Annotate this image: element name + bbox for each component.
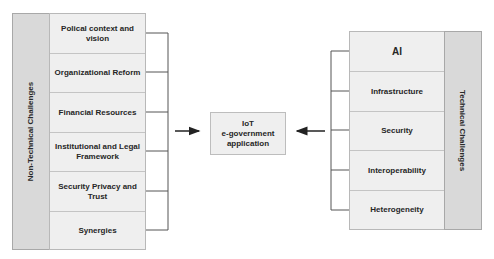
challenge-synergies: Synergies bbox=[50, 212, 145, 249]
center-line-1: IoT bbox=[222, 119, 275, 129]
center-line-3: application bbox=[222, 139, 275, 149]
challenge-political-context: Polical context and vision bbox=[50, 14, 145, 54]
group-label: Technical Challenges bbox=[459, 90, 468, 171]
challenge-ai: AI bbox=[350, 32, 444, 72]
challenge-institutional-legal: Institutional and Legal Framework bbox=[50, 133, 145, 172]
challenge-infrastructure: Infrastructure bbox=[350, 72, 444, 112]
technical-challenges-list: AI Infrastructure Security Interoperabil… bbox=[349, 31, 445, 230]
iot-egovernment-application-box: IoT e-government application bbox=[210, 112, 286, 155]
challenge-security: Security bbox=[350, 112, 444, 151]
technical-challenges-label: Technical Challenges bbox=[444, 31, 482, 230]
left-bracket bbox=[145, 33, 168, 230]
non-technical-challenges-label: Non-Technical Challenges bbox=[12, 13, 50, 250]
center-line-2: e-government bbox=[222, 129, 275, 139]
challenge-interoperability: Interoperability bbox=[350, 151, 444, 191]
group-label: Non-Technical Challenges bbox=[27, 82, 36, 181]
challenge-security-privacy-trust: Security Privacy and Trust bbox=[50, 172, 145, 212]
challenge-organizational-reform: Organizational Reform bbox=[50, 54, 145, 93]
right-bracket bbox=[331, 51, 349, 210]
challenge-heterogeneity: Heterogeneity bbox=[350, 191, 444, 229]
challenge-financial-resources: Financial Resources bbox=[50, 93, 145, 133]
non-technical-challenges-list: Polical context and vision Organizationa… bbox=[49, 13, 146, 250]
